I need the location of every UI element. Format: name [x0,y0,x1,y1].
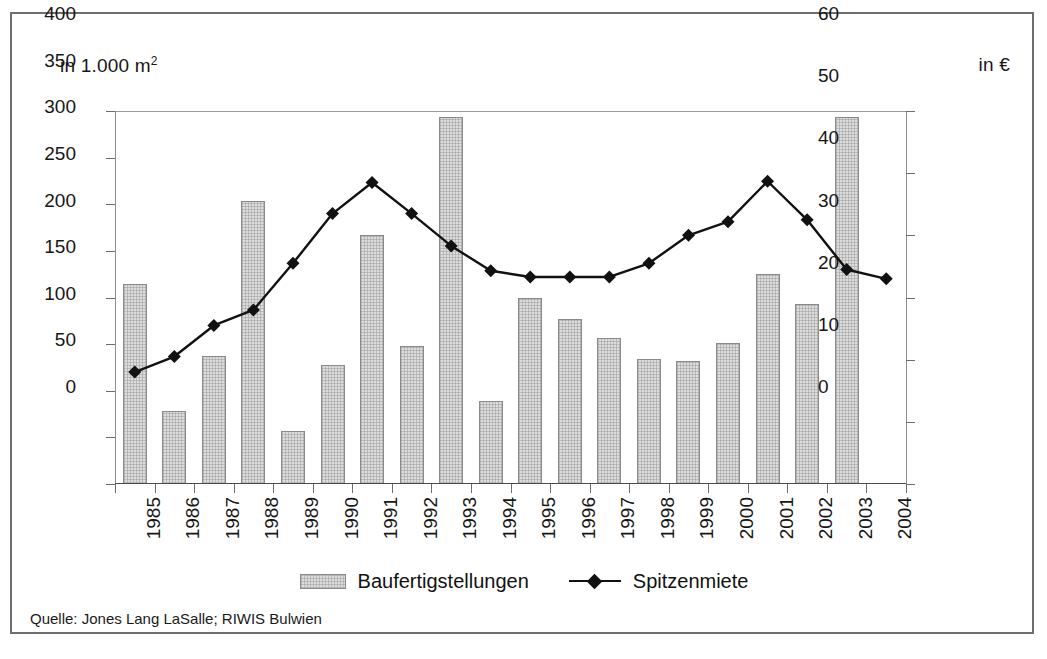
left-axis-tick [106,204,115,205]
x-axis-tick-label: 2004 [894,497,916,539]
right-axis-tick [906,235,915,236]
legend-item-line: Spitzenmiete [569,570,749,593]
left-axis-tick-label: 350 [44,50,76,72]
x-axis-tick [115,484,116,493]
x-axis-tick [234,484,235,493]
right-axis-caption: in € [979,54,1010,76]
x-axis-tick-label: 1989 [301,497,323,539]
plot-area [115,111,906,484]
x-axis-tick [748,484,749,493]
x-axis-tick [431,484,432,493]
x-axis-tick [590,484,591,493]
left-axis-tick-labels: 050100150200250300350400 [0,14,76,387]
left-axis-tick [106,298,115,299]
left-axis-tick-label: 150 [44,236,76,258]
x-axis-tick [550,484,551,493]
left-axis-tick [106,251,115,252]
x-axis-tick [511,484,512,493]
x-axis-tick [866,484,867,493]
left-axis-tick-label: 0 [65,376,76,398]
legend-line-label: Spitzenmiete [633,570,749,593]
x-axis-tick-label: 1986 [182,497,204,539]
x-axis-tick-label: 1994 [499,497,521,539]
x-axis-tick-label: 2001 [776,497,798,539]
line-marker-diamond [524,270,537,283]
right-axis-tick-label: 50 [818,65,839,87]
x-axis-tick [313,484,314,493]
left-axis-tick-label: 400 [44,3,76,25]
legend-bar-swatch-icon [300,574,346,589]
right-axis-tick [906,173,915,174]
x-axis-tick-label: 1999 [696,497,718,539]
right-axis-tick-label: 0 [818,376,829,398]
left-axis-tick-label: 250 [44,143,76,165]
right-axis-tick [906,422,915,423]
left-axis-tick [106,437,115,438]
x-axis-tick [787,484,788,493]
line-path [135,181,886,372]
line-marker-diamond [484,264,497,277]
legend-bars-label: Baufertigstellungen [358,570,529,593]
chart-frame: in 1.000 m2 in € 05010015020025030035040… [10,12,1034,634]
x-axis-tick [471,484,472,493]
right-axis-tick [906,484,915,485]
left-axis-tick [106,344,115,345]
right-axis-tick [906,111,915,112]
left-axis-tick-label: 100 [44,283,76,305]
x-axis-tick-label: 1988 [261,497,283,539]
x-axis-tick-label: 1990 [341,497,363,539]
line-series-spitzenmiete [115,111,906,484]
x-axis-tick-label: 1991 [380,497,402,539]
left-axis-tick [106,484,115,485]
left-axis-tick-label: 300 [44,96,76,118]
source-note: Quelle: Jones Lang LaSalle; RIWIS Bulwie… [30,610,322,627]
line-marker-diamond [603,270,616,283]
left-axis-tick-label: 50 [55,329,76,351]
x-axis-tick-label: 2003 [855,497,877,539]
x-axis-tick-label: 1998 [657,497,679,539]
right-axis-tick-label: 20 [818,252,839,274]
line-marker-diamond [128,366,141,379]
right-axis-tick-label: 60 [818,3,839,25]
right-axis-tick-label: 40 [818,127,839,149]
left-axis-tick [106,158,115,159]
legend-line-diamond-icon [569,574,621,588]
x-axis-tick [273,484,274,493]
right-axis-tick-label: 30 [818,190,839,212]
left-axis-caption-superscript: 2 [151,54,158,68]
x-axis-tick-label: 1997 [617,497,639,539]
x-axis-tick [629,484,630,493]
x-axis-tick-label: 2000 [736,497,758,539]
x-axis-tick [906,484,907,493]
legend-item-bars: Baufertigstellungen [300,570,529,593]
left-axis-tick [106,111,115,112]
right-axis-tick-label: 10 [818,314,839,336]
x-axis-tick-label: 1993 [459,497,481,539]
x-axis-tick-label: 1996 [578,497,600,539]
x-axis-tick-label: 1985 [143,497,165,539]
right-axis-tick-labels: 0102030405060 [818,14,898,387]
x-axis-tick [194,484,195,493]
left-axis-tick [106,391,115,392]
right-axis-tick [906,360,915,361]
x-axis-tick [352,484,353,493]
right-axis-tick [906,298,915,299]
chart-legend: Baufertigstellungen Spitzenmiete [12,565,1036,597]
x-axis-tick [669,484,670,493]
chart-page: in 1.000 m2 in € 05010015020025030035040… [0,0,1047,659]
x-axis-tick [827,484,828,493]
x-axis-tick [708,484,709,493]
x-axis-tick-label: 1995 [538,497,560,539]
legend-diamond-marker-icon [587,574,603,590]
x-axis-tick-label: 2002 [815,497,837,539]
x-axis-tick [392,484,393,493]
x-axis-tick-label: 1987 [222,497,244,539]
x-axis-tick-label: 1992 [420,497,442,539]
left-axis-tick-label: 200 [44,190,76,212]
x-axis-tick [155,484,156,493]
line-marker-diamond [563,270,576,283]
